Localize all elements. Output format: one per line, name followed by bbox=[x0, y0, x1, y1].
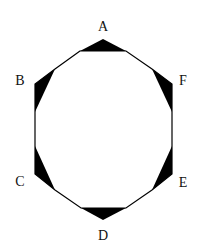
label-b: B bbox=[15, 73, 24, 88]
octagon-diagram: A B C D E F bbox=[0, 0, 202, 245]
label-a: A bbox=[98, 19, 109, 34]
label-d: D bbox=[98, 228, 108, 243]
label-e: E bbox=[179, 175, 188, 190]
label-f: F bbox=[179, 73, 187, 88]
triangle-a bbox=[80, 39, 126, 51]
triangle-d bbox=[81, 208, 126, 220]
octagon-outline bbox=[35, 51, 172, 208]
triangle-e bbox=[152, 146, 172, 190]
triangle-f bbox=[152, 69, 172, 112]
triangle-b bbox=[35, 69, 55, 112]
triangle-c bbox=[35, 146, 55, 190]
label-c: C bbox=[15, 174, 24, 189]
